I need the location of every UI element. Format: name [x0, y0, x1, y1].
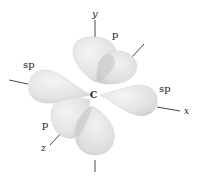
orbital-diagram-svg: y p sp C sp x p z — [0, 0, 201, 178]
x-axis-label: x — [184, 106, 189, 116]
y-axis-label: y — [91, 8, 98, 19]
x-axis-line — [157, 107, 180, 111]
sp-orbital-label-right: sp — [159, 83, 171, 94]
z-axis-label: z — [40, 143, 46, 153]
p-orbital-label-bottom: p — [42, 119, 48, 130]
x-axis-back-line — [9, 80, 28, 84]
z-axis-back-line — [132, 44, 144, 57]
p-orbital-label-top: p — [112, 29, 118, 40]
orbital-diagram: y p sp C sp x p z — [0, 0, 201, 178]
sp-orbital-label-left: sp — [23, 59, 35, 70]
carbon-atom-label: C — [90, 90, 97, 100]
sp-lobe-right — [100, 85, 157, 116]
